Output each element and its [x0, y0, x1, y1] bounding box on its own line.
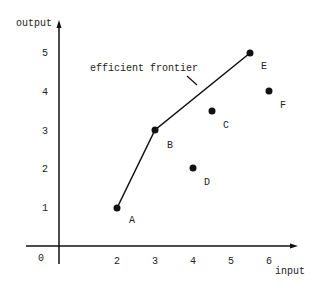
x-axis — [26, 244, 298, 249]
x-tick: 4 — [190, 256, 196, 267]
point-f: F — [266, 88, 287, 112]
x-tick: 5 — [228, 256, 234, 267]
x-tick: 3 — [152, 256, 158, 267]
point-c: C — [209, 108, 230, 132]
point-d: D — [190, 165, 211, 189]
svg-text:E: E — [261, 61, 267, 72]
y-tick: 2 — [42, 164, 48, 175]
y-tick: 5 — [42, 48, 48, 59]
point-e: E — [247, 50, 268, 73]
x-tick: 2 — [114, 256, 120, 267]
svg-text:D: D — [204, 177, 210, 188]
origin-label: 0 — [38, 253, 44, 264]
efficient-frontier-line — [117, 53, 250, 208]
point-b: B — [152, 127, 174, 152]
x-axis-label: input — [275, 266, 305, 277]
y-tick: 4 — [42, 87, 48, 98]
svg-text:F: F — [280, 100, 286, 111]
y-axis-arrow-icon — [57, 20, 62, 28]
svg-text:A: A — [129, 215, 135, 226]
chart: output input 0 5 4 3 2 1 2 3 4 5 6 effic… — [0, 0, 320, 292]
y-axis-label: output — [16, 18, 52, 29]
annotation-pointer — [187, 76, 197, 85]
x-tick: 6 — [266, 256, 272, 267]
svg-text:C: C — [223, 120, 229, 131]
svg-text:B: B — [167, 140, 173, 151]
y-tick: 3 — [42, 126, 48, 137]
y-axis — [57, 20, 62, 264]
frontier-annotation: efficient frontier — [90, 63, 198, 74]
x-axis-arrow-icon — [290, 244, 298, 249]
point-a: A — [114, 205, 136, 227]
y-tick: 1 — [42, 203, 48, 214]
